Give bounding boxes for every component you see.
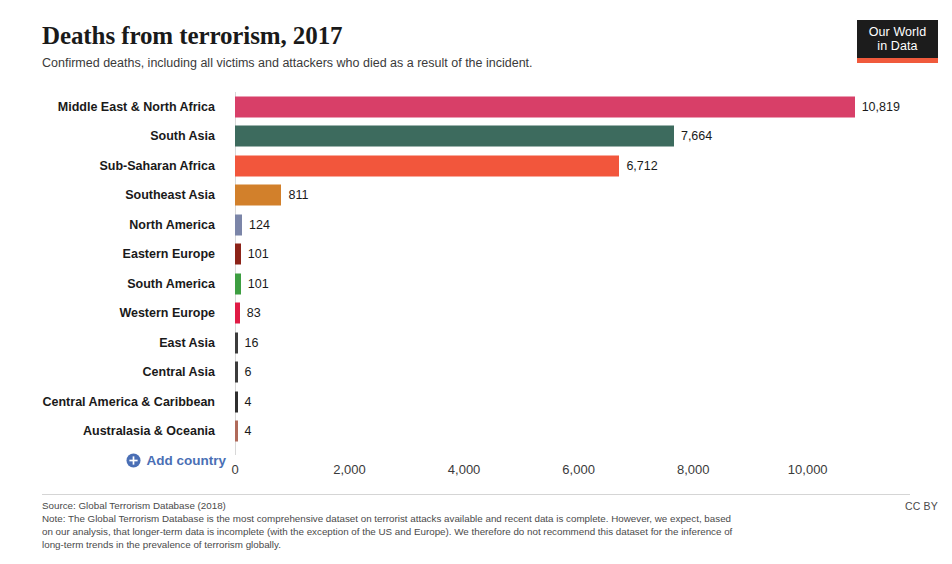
bar-value-label: 10,819 — [855, 100, 900, 114]
x-axis-tick-label: 6,000 — [562, 462, 595, 477]
bar-category-label: Australasia & Oceania — [0, 424, 224, 438]
bar-track: 10,819 — [235, 92, 942, 122]
bar-value-label: 7,664 — [674, 129, 712, 143]
logo-line-1: Our World — [861, 25, 934, 39]
bar-value-label: 124 — [242, 218, 270, 232]
footer-divider — [42, 494, 910, 495]
bar-category-label: South Asia — [0, 129, 224, 143]
bar-value-label: 83 — [240, 306, 261, 320]
bar-category-label: Middle East & North Africa — [0, 100, 224, 114]
bar-value-label: 4 — [238, 395, 252, 409]
bar-row[interactable]: Central America & Caribbean4 — [0, 387, 952, 417]
bar-category-label: South America — [0, 277, 224, 291]
bar-chart: Middle East & North Africa10,819South As… — [0, 92, 952, 447]
bar-row[interactable]: South America101 — [0, 269, 952, 299]
logo-box: Our World in Data — [857, 20, 938, 58]
bar[interactable] — [235, 126, 674, 147]
logo-line-2: in Data — [861, 39, 934, 53]
bar-category-label: Eastern Europe — [0, 247, 224, 261]
bar-row[interactable]: Eastern Europe101 — [0, 240, 952, 270]
bar-track: 124 — [235, 210, 942, 240]
source-text: Source: Global Terrorism Database (2018) — [42, 500, 742, 513]
bar-row[interactable]: South Asia7,664 — [0, 122, 952, 152]
bar-track: 83 — [235, 299, 942, 329]
x-axis: 02,0004,0006,0008,00010,000 — [0, 462, 952, 484]
x-axis-tick-label: 4,000 — [448, 462, 481, 477]
bar-category-label: Western Europe — [0, 306, 224, 320]
page-title: Deaths from terrorism, 2017 — [42, 22, 822, 50]
bar-row[interactable]: Western Europe83 — [0, 299, 952, 329]
bar-track: 4 — [235, 387, 942, 417]
bar-value-label: 6 — [238, 365, 252, 379]
bar-row[interactable]: East Asia16 — [0, 328, 952, 358]
bar-row[interactable]: Sub-Saharan Africa6,712 — [0, 151, 952, 181]
bar-row[interactable]: Middle East & North Africa10,819 — [0, 92, 952, 122]
bar-row[interactable]: North America124 — [0, 210, 952, 240]
bar-value-label: 16 — [238, 336, 259, 350]
bar-track: 6,712 — [235, 151, 942, 181]
bar-track: 7,664 — [235, 122, 942, 152]
chart-subtitle: Confirmed deaths, including all victims … — [42, 56, 822, 71]
bar-track: 101 — [235, 269, 942, 299]
x-axis-tick-label: 10,000 — [788, 462, 828, 477]
our-world-in-data-logo[interactable]: Our World in Data — [857, 20, 938, 63]
note-text: Note: The Global Terrorism Database is t… — [42, 513, 742, 552]
bar-track: 4 — [235, 417, 942, 447]
bar[interactable] — [235, 185, 281, 206]
x-axis-tick-label: 8,000 — [677, 462, 710, 477]
x-axis-tick-label: 2,000 — [333, 462, 366, 477]
license-label: CC BY — [905, 500, 938, 512]
bar-value-label: 101 — [241, 247, 269, 261]
bar-row[interactable]: Southeast Asia811 — [0, 181, 952, 211]
x-axis-tick-label: 0 — [231, 462, 238, 477]
logo-accent-bar — [857, 58, 938, 63]
bar-list: Middle East & North Africa10,819South As… — [0, 92, 952, 446]
bar-category-label: Central America & Caribbean — [0, 395, 224, 409]
bar-track: 101 — [235, 240, 942, 270]
bar-value-label: 4 — [238, 424, 252, 438]
bar-row[interactable]: Central Asia6 — [0, 358, 952, 388]
bar-value-label: 101 — [241, 277, 269, 291]
bar-category-label: Southeast Asia — [0, 188, 224, 202]
bar-category-label: Sub-Saharan Africa — [0, 159, 224, 173]
bar-category-label: East Asia — [0, 336, 224, 350]
chart-header: Deaths from terrorism, 2017 Confirmed de… — [42, 22, 822, 71]
bar-category-label: North America — [0, 218, 224, 232]
bar-value-label: 811 — [281, 188, 308, 202]
bar-category-label: Central Asia — [0, 365, 224, 379]
bar[interactable] — [235, 155, 619, 176]
bar-row[interactable]: Australasia & Oceania4 — [0, 417, 952, 447]
bar[interactable] — [235, 214, 242, 235]
bar-track: 6 — [235, 358, 942, 388]
bar-value-label: 6,712 — [619, 159, 657, 173]
bar[interactable] — [235, 96, 855, 117]
bar-track: 811 — [235, 181, 942, 211]
footer: Source: Global Terrorism Database (2018)… — [42, 500, 742, 552]
bar-track: 16 — [235, 328, 942, 358]
